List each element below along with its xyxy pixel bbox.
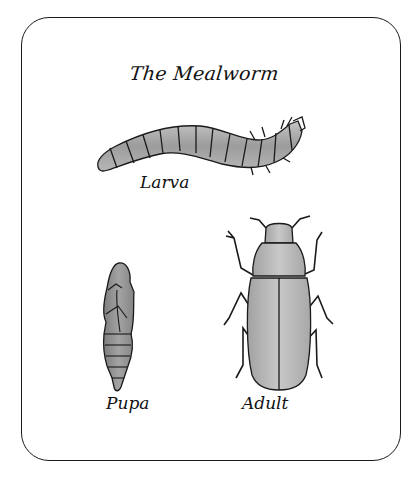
larva-label: Larva xyxy=(140,172,189,192)
adult-beetle-drawing xyxy=(224,216,333,390)
larva-drawing xyxy=(98,117,305,175)
mealworm-illustrations xyxy=(0,0,420,479)
pupa-label: Pupa xyxy=(106,393,149,413)
adult-label: Adult xyxy=(242,393,288,413)
pupa-drawing xyxy=(104,263,134,391)
